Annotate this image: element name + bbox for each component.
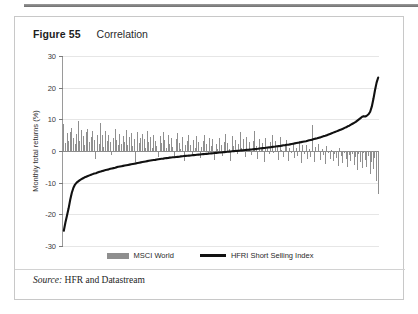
source-divider <box>15 269 405 270</box>
y-tick-label: -10 <box>45 178 56 187</box>
legend-swatch-line-icon <box>200 254 226 257</box>
source-label: Source: <box>33 275 62 285</box>
legend-swatch-bar-icon <box>107 253 129 259</box>
y-tick-label: 0 <box>52 147 56 156</box>
y-tick-label: 10 <box>48 115 56 124</box>
gridline <box>63 246 379 247</box>
line-path-svg <box>63 56 379 246</box>
chart-legend: MSCI World HFRI Short Selling Index <box>15 251 405 260</box>
y-tick-label: -20 <box>45 210 56 219</box>
y-tick-mark <box>59 246 63 247</box>
line-series-hfri-short-selling <box>63 56 379 246</box>
figure-card: Figure 55Correlation Monthly total retur… <box>14 16 404 300</box>
plot-region: 3020100-10-20-30 <box>63 56 379 246</box>
chart-area: Monthly total returns (%) 3020100-10-20-… <box>15 17 405 301</box>
y-tick-label: -30 <box>45 242 56 251</box>
source-note: Source: HFR and Datastream <box>33 275 145 285</box>
legend-label-hfri-short-selling-index: HFRI Short Selling Index <box>231 251 314 260</box>
page-top-rule <box>24 4 418 7</box>
y-tick-label: 30 <box>48 52 56 61</box>
legend-item-hfri-short-selling-index: HFRI Short Selling Index <box>200 251 314 260</box>
legend-label-msci-world: MSCI World <box>134 251 174 260</box>
y-tick-label: 20 <box>48 83 56 92</box>
legend-item-msci-world: MSCI World <box>107 251 174 260</box>
y-axis-title: Monthly total returns (%) <box>31 110 40 192</box>
source-text: HFR and Datastream <box>65 275 145 285</box>
